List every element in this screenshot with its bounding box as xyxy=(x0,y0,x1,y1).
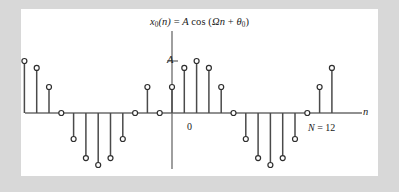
stem-marker xyxy=(256,156,261,161)
stem-marker xyxy=(157,111,162,116)
stem-marker xyxy=(170,85,175,90)
stem-marker xyxy=(219,85,224,90)
stem-marker xyxy=(145,85,150,90)
stem-marker xyxy=(120,137,125,142)
stem-marker xyxy=(133,111,138,116)
stem-marker xyxy=(293,137,298,142)
stem-marker xyxy=(83,156,88,161)
stem-plot xyxy=(21,9,378,176)
stem-marker xyxy=(329,65,334,70)
axes-group xyxy=(25,31,362,169)
figure-panel: x0(n) = A cos (Ωn + θ0) A 0 n N = 12 xyxy=(21,9,378,176)
stem-marker xyxy=(317,85,322,90)
stem-marker xyxy=(22,59,27,64)
stem-marker xyxy=(59,111,64,116)
stem-marker xyxy=(182,65,187,70)
stem-marker xyxy=(305,111,310,116)
stem-marker xyxy=(34,65,39,70)
stem-marker xyxy=(243,137,248,142)
stem-marker xyxy=(268,163,273,168)
stem-marker xyxy=(231,111,236,116)
stem-marker xyxy=(108,156,113,161)
stem-marker xyxy=(206,65,211,70)
stem-marker xyxy=(71,137,76,142)
figure-frame: x0(n) = A cos (Ωn + θ0) A 0 n N = 12 xyxy=(0,0,399,192)
stem-marker xyxy=(194,59,199,64)
stem-marker xyxy=(280,156,285,161)
stem-marker xyxy=(47,85,52,90)
stem-marker xyxy=(96,163,101,168)
